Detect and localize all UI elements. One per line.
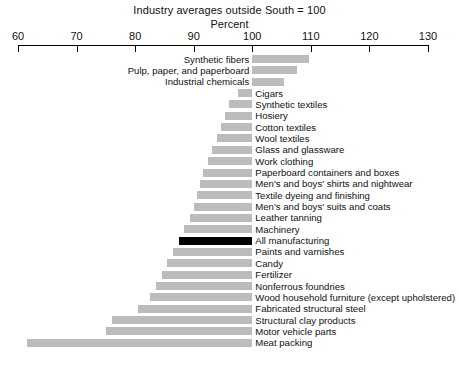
chart-bar-row: Wool textiles [0, 133, 459, 144]
chart-bar-row: Cigars [0, 88, 459, 99]
bar [27, 339, 253, 347]
bar-category-label: Paints and varnishes [255, 246, 344, 257]
axis-tick-label: 110 [302, 30, 320, 42]
chart-bar-row: Industrial chemicals [0, 77, 459, 88]
bar [179, 237, 252, 245]
chart-bar-row: Structural clay products [0, 315, 459, 326]
bar-category-label: Textile dyeing and finishing [255, 190, 370, 201]
axis-line [18, 45, 428, 46]
chart-bar-row: Men's and boys' shirts and nightwear [0, 179, 459, 190]
bar [208, 157, 252, 165]
bar-category-label: All manufacturing [255, 235, 329, 246]
chart-root: Industry averages outside South = 100 Pe… [0, 0, 459, 374]
chart-bar-row: Motor vehicle parts [0, 326, 459, 337]
bar [203, 169, 253, 177]
bar [150, 293, 253, 301]
chart-bar-row: Glass and glassware [0, 145, 459, 156]
bar-category-label: Fabricated structural steel [255, 303, 365, 314]
chart-bar-row: Wood household furniture (except upholst… [0, 292, 459, 303]
bar-category-label: Synthetic textiles [255, 99, 327, 110]
chart-bar-row: Paperboard containers and boxes [0, 168, 459, 179]
chart-bar-row: Synthetic fibers [0, 54, 459, 65]
axis-tick-label: 120 [360, 30, 378, 42]
chart-bar-row: All manufacturing [0, 236, 459, 247]
bar [156, 282, 253, 290]
bar [173, 248, 252, 256]
axis-tick-label: 100 [243, 30, 261, 42]
bar-category-label: Nonferrous foundries [255, 281, 345, 292]
axis-tick-mark [135, 45, 136, 52]
bar-category-label: Motor vehicle parts [255, 326, 336, 337]
chart-bar-row: Textile dyeing and finishing [0, 190, 459, 201]
bar [184, 225, 253, 233]
bar [252, 55, 308, 63]
bar [162, 271, 253, 279]
chart-bar-row: Nonferrous foundries [0, 281, 459, 292]
chart-bar-row: Candy [0, 258, 459, 269]
bar-category-label: Structural clay products [255, 315, 355, 326]
bar [190, 214, 253, 222]
bar [106, 327, 252, 335]
bar-category-label: Glass and glassware [255, 144, 344, 155]
bar-category-label: Work clothing [255, 156, 313, 167]
bar-category-label: Hosiery [255, 110, 288, 121]
bar [225, 112, 253, 120]
bar-category-label: Paperboard containers and boxes [255, 167, 399, 178]
chart-bar-row: Machinery [0, 224, 459, 235]
x-axis: 60708090100110120130 [0, 30, 459, 52]
axis-tick-mark [18, 45, 19, 52]
axis-tick-mark [428, 45, 429, 52]
bar-category-label: Candy [255, 258, 283, 269]
chart-bar-row: Hosiery [0, 111, 459, 122]
chart-bar-row: Pulp, paper, and paperboard [0, 65, 459, 76]
axis-tick-mark [77, 45, 78, 52]
bar [238, 89, 253, 97]
axis-tick-mark [252, 45, 253, 52]
bar [217, 134, 252, 142]
bar [197, 191, 253, 199]
axis-tick-label: 130 [419, 30, 437, 42]
bars-plot-area: Synthetic fibersPulp, paper, and paperbo… [0, 54, 459, 372]
bar-category-label: Fertilizer [255, 269, 292, 280]
axis-tick-mark [369, 45, 370, 52]
chart-bar-row: Cotton textiles [0, 122, 459, 133]
chart-bar-row: Fertilizer [0, 270, 459, 281]
chart-bar-row: Meat packing [0, 338, 459, 349]
axis-tick-label: 70 [70, 30, 82, 42]
bar-category-label: Meat packing [255, 337, 312, 348]
bar [252, 66, 297, 74]
axis-tick-label: 90 [188, 30, 200, 42]
axis-tick-label: 80 [129, 30, 141, 42]
bar [167, 259, 252, 267]
bar [194, 203, 253, 211]
chart-bar-row: Leather tanning [0, 213, 459, 224]
bar-category-label: Wood household furniture (except upholst… [255, 292, 455, 303]
title-block: Industry averages outside South = 100 Pe… [0, 0, 459, 31]
bar-category-label: Cotton textiles [255, 122, 316, 133]
bar-category-label: Industrial chemicals [165, 76, 249, 87]
bar [112, 316, 253, 324]
bar-category-label: Pulp, paper, and paperboard [128, 65, 250, 76]
bar-category-label: Synthetic fibers [184, 54, 250, 65]
bar-category-label: Cigars [255, 88, 283, 99]
chart-bar-row: Synthetic textiles [0, 99, 459, 110]
bar [221, 123, 252, 131]
chart-bar-row: Fabricated structural steel [0, 304, 459, 315]
bar [200, 180, 253, 188]
chart-bar-row: Paints and varnishes [0, 247, 459, 258]
bar [212, 146, 252, 154]
bar-category-label: Men's and boys' suits and coats [255, 201, 390, 212]
axis-tick-label: 60 [12, 30, 24, 42]
axis-tick-mark [194, 45, 195, 52]
bar-category-label: Wool textiles [255, 133, 309, 144]
chart-bar-row: Work clothing [0, 156, 459, 167]
chart-title: Industry averages outside South = 100 [0, 4, 459, 17]
bar-category-label: Men's and boys' shirts and nightwear [255, 178, 412, 189]
chart-bar-row: Men's and boys' suits and coats [0, 202, 459, 213]
axis-tick-mark [311, 45, 312, 52]
bar [138, 305, 252, 313]
bar-category-label: Leather tanning [255, 212, 322, 223]
bar [229, 100, 252, 108]
bar-category-label: Machinery [255, 224, 299, 235]
bar [252, 78, 284, 86]
